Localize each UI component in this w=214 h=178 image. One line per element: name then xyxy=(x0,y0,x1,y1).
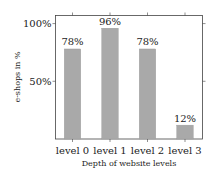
data-label: 12% xyxy=(174,113,196,124)
bar-chart: 78%96%78%12% level 0level 1level 2level … xyxy=(0,0,214,178)
bar-level-0 xyxy=(64,49,81,139)
y-tick-label: 100% xyxy=(23,18,52,29)
x-axis-label: Depth of website levels xyxy=(82,159,177,168)
bar-level-1 xyxy=(102,28,119,139)
data-label: 78% xyxy=(136,36,158,47)
data-label: 96% xyxy=(99,16,121,27)
y-axis-label: e-shops in % xyxy=(13,51,22,103)
x-tick-label: level 3 xyxy=(168,145,201,156)
x-tick-label: level 1 xyxy=(93,145,126,156)
bar-level-2 xyxy=(139,49,156,139)
x-tick-label: level 2 xyxy=(131,145,164,156)
y-tick-label: 50% xyxy=(29,76,51,87)
x-tick-label: level 0 xyxy=(56,145,89,156)
data-label: 78% xyxy=(61,36,83,47)
bar-level-3 xyxy=(177,125,194,139)
